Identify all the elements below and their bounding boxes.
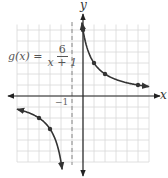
tick-label-neg-1: −1 [55, 97, 68, 107]
denominator: x + 1 [48, 57, 77, 69]
data-point [92, 61, 96, 65]
data-point [48, 127, 52, 131]
fraction: 6 x + 1 [48, 44, 77, 69]
data-point [81, 28, 85, 32]
data-point [136, 83, 140, 87]
function-label: g(x) = 6 x + 1 [8, 44, 77, 69]
x-axis-label: x [160, 88, 167, 102]
y-axis-label: y [80, 0, 87, 12]
data-point [37, 116, 41, 120]
data-point [103, 72, 107, 76]
function-lhs: g(x) = [8, 50, 43, 63]
curve-right-branch [82, 23, 149, 87]
function-graph [0, 0, 168, 178]
